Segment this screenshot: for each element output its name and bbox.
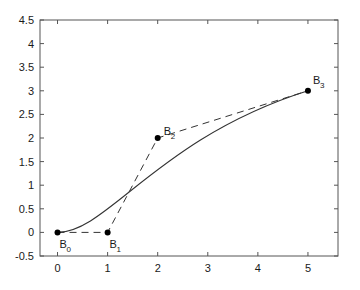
y-tick-label: 4.5: [19, 14, 34, 26]
control-point-marker: [105, 229, 111, 235]
control-point-marker: [155, 135, 161, 141]
x-tick-label: 4: [255, 262, 261, 274]
bezier-curve-figure: B0B1B2B3 -0.500.511.522.533.544.5012345: [0, 0, 360, 290]
y-tick-label: -0.5: [15, 250, 34, 262]
x-tick-label: 5: [305, 262, 311, 274]
y-tick-label: 4: [28, 38, 34, 50]
control-point-label-subscript: 3: [320, 81, 325, 90]
y-tick-label: 0: [28, 226, 34, 238]
y-tick-label: 2.5: [19, 108, 34, 120]
y-tick-label: 3.5: [19, 61, 34, 73]
x-tick-label: 1: [105, 262, 111, 274]
y-tick-label: 0.5: [19, 203, 34, 215]
y-tick-label: 3: [28, 85, 34, 97]
y-tick-label: 2: [28, 132, 34, 144]
y-tick-label: 1: [28, 179, 34, 191]
chart-background: [0, 0, 360, 290]
y-tick-label: 1.5: [19, 156, 34, 168]
chart-canvas: B0B1B2B3 -0.500.511.522.533.544.5012345: [0, 0, 360, 290]
x-tick-label: 0: [54, 262, 60, 274]
control-point-label-subscript: 0: [67, 245, 72, 254]
x-tick-label: 3: [205, 262, 211, 274]
control-point-marker: [305, 88, 311, 94]
control-point-label-subscript: 2: [171, 132, 176, 141]
control-point-label-subscript: 1: [117, 245, 122, 254]
x-tick-label: 2: [155, 262, 161, 274]
control-point-marker: [55, 229, 61, 235]
